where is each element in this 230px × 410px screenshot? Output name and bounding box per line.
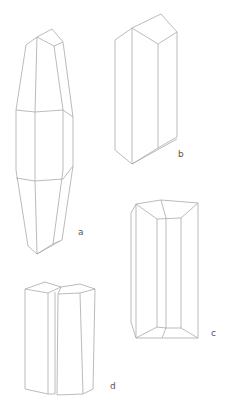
label-b: b xyxy=(178,150,184,159)
crystal-a xyxy=(16,29,73,254)
crystal-b xyxy=(115,14,177,164)
crystal-d xyxy=(25,282,95,395)
label-c: c xyxy=(211,329,216,338)
crystal-drawings xyxy=(0,0,230,410)
crystal-c xyxy=(131,200,198,338)
label-a: a xyxy=(78,228,84,237)
label-d: d xyxy=(110,382,116,391)
